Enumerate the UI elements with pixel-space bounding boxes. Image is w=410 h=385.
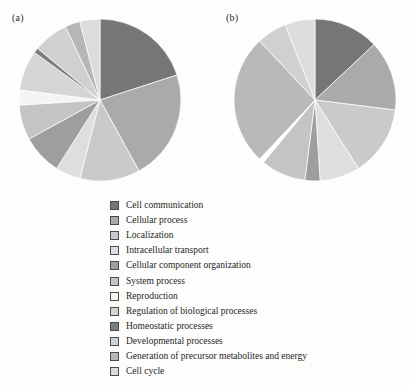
legend-item: Cell cycle [110,364,400,379]
legend-item-label: Reproduction [126,291,178,302]
legend-item-label: System process [126,276,185,287]
legend-item: Cell communication [110,198,400,213]
legend-swatch-icon [110,307,119,316]
legend-item: Reproduction [110,289,400,304]
legend-item-label: Cellular component organization [126,260,251,271]
legend-swatch-icon [110,367,119,376]
legend-item-label: Cell communication [126,200,203,211]
legend-item: Regulation of biological processes [110,304,400,319]
legend-item: Developmental processes [110,334,400,349]
legend-item: Intracellular transport [110,243,400,258]
legend-swatch-icon [110,216,119,225]
pie-b-slice-group [234,19,396,181]
legend-item-label: Localization [126,230,173,241]
figure-canvas: (a) (b) Cell communicationCellular proce… [0,0,410,385]
legend-item-label: Homeostatic processes [126,321,213,332]
legend-swatch-icon [110,352,119,361]
legend-item: Localization [110,228,400,243]
legend-item-label: Generation of precursor metabolites and … [126,351,307,362]
pie-b-svg [233,18,397,182]
legend-swatch-icon [110,322,119,331]
legend-item-label: Cell cycle [126,366,164,377]
legend-swatch-icon [110,292,119,301]
legend-item-label: Cellular process [126,215,187,226]
legend-item-label: Regulation of biological processes [126,306,257,317]
legend-swatch-icon [110,277,119,286]
legend-item: Homeostatic processes [110,319,400,334]
legend-swatch-icon [110,261,119,270]
legend-swatch-icon [110,201,119,210]
legend-item-label: Developmental processes [126,336,223,347]
legend-item: Cellular process [110,213,400,228]
legend-swatch-icon [110,231,119,240]
pie-a-slice-group [19,19,181,181]
legend-item-label: Intracellular transport [126,245,209,256]
legend-swatch-icon [110,246,119,255]
legend-item: Generation of precursor metabolites and … [110,349,400,364]
legend-item: Cellular component organization [110,258,400,273]
legend: Cell communicationCellular processLocali… [110,198,400,379]
legend-item: System process [110,273,400,288]
pie-a-svg [18,18,182,182]
pie-chart-a [18,18,182,182]
pie-chart-b [233,18,397,182]
legend-swatch-icon [110,337,119,346]
